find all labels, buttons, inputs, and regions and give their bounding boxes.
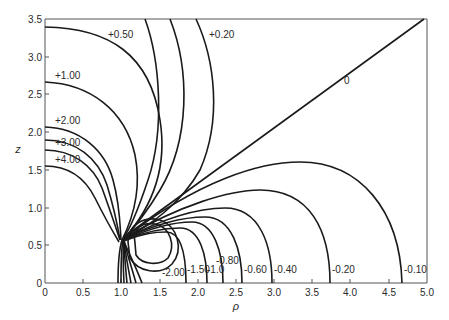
svg-text:3.0: 3.0 <box>28 52 42 63</box>
contour-curves <box>45 19 424 283</box>
x-axis-ticks <box>83 279 389 283</box>
svg-text:3.5: 3.5 <box>28 14 42 25</box>
contour-minus-0-20 <box>124 190 330 283</box>
svg-text:+1.00: +1.00 <box>55 70 81 81</box>
svg-text:1.5: 1.5 <box>153 287 167 298</box>
svg-text:-0.20: -0.20 <box>332 264 355 275</box>
svg-text:2.5: 2.5 <box>229 287 243 298</box>
svg-text:0: 0 <box>42 287 48 298</box>
svg-text:-0.80: -0.80 <box>216 255 239 266</box>
curve-labels: +0.50 +0.20 +1.00 +2.00 +3.00 +4.00 0 -2… <box>55 29 427 278</box>
x-tick-labels: 0 0.5 1.0 1.5 2.0 2.5 3.0 3.5 4.0 4.5 5.… <box>42 287 434 298</box>
contour-plus-0-50 <box>45 27 162 240</box>
y-axis-ticks <box>45 57 49 245</box>
svg-text:+0.50: +0.50 <box>108 29 134 40</box>
svg-text:2.5: 2.5 <box>28 89 42 100</box>
y-axis-title: z <box>14 143 21 155</box>
svg-text:3.0: 3.0 <box>267 287 281 298</box>
svg-text:2.0: 2.0 <box>191 287 205 298</box>
svg-text:0.5: 0.5 <box>28 240 42 251</box>
svg-text:0: 0 <box>36 278 42 289</box>
svg-text:4.5: 4.5 <box>382 287 396 298</box>
svg-text:1.5: 1.5 <box>28 165 42 176</box>
svg-text:3.5: 3.5 <box>305 287 319 298</box>
svg-text:-0.60: -0.60 <box>244 264 267 275</box>
svg-text:-2.00: -2.00 <box>162 267 185 278</box>
x-axis-title: ρ <box>232 300 239 312</box>
svg-text:-0.10: -0.10 <box>404 264 427 275</box>
svg-text:2.0: 2.0 <box>28 127 42 138</box>
svg-text:-0.40: -0.40 <box>274 264 297 275</box>
svg-text:4.0: 4.0 <box>343 287 357 298</box>
svg-text:+4.00: +4.00 <box>55 154 81 165</box>
svg-text:5.0: 5.0 <box>420 287 434 298</box>
contour-chart: 0 0.5 1.0 1.5 2.0 2.5 3.0 3.5 4.0 4.5 5.… <box>0 0 449 320</box>
svg-text:1.0: 1.0 <box>28 203 42 214</box>
svg-text:0: 0 <box>344 75 350 86</box>
svg-text:+2.00: +2.00 <box>55 115 81 126</box>
y-tick-labels: 0 0.5 1.0 1.5 2.0 2.5 3.0 3.5 <box>28 14 42 289</box>
svg-text:+3.00: +3.00 <box>55 137 81 148</box>
svg-text:1.0: 1.0 <box>114 287 128 298</box>
svg-text:0.5: 0.5 <box>76 287 90 298</box>
svg-text:+0.20: +0.20 <box>209 29 235 40</box>
